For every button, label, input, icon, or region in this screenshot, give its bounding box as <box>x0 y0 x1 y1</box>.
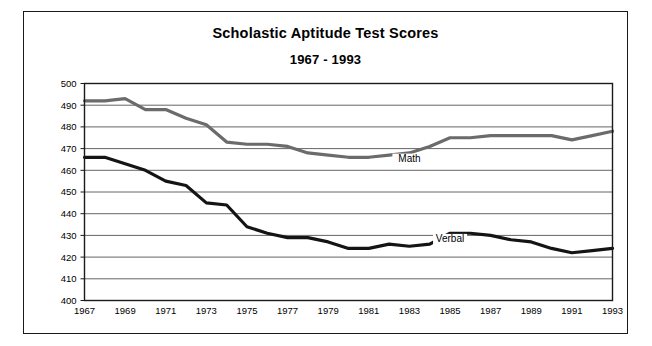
x-tick-label: 1971 <box>155 305 176 316</box>
y-tick-label: 470 <box>61 143 77 154</box>
y-tick-label: 410 <box>61 273 77 284</box>
x-tick-label: 1991 <box>561 305 582 316</box>
x-tick-label: 1993 <box>602 305 623 316</box>
x-tick-label: 1967 <box>74 305 95 316</box>
series-label-math: Math <box>398 153 420 164</box>
y-axis-tick-labels: 400410420430440450460470480490500 <box>61 78 77 306</box>
figure-container: Scholastic Aptitude Test Scores 1967 - 1… <box>0 0 652 346</box>
y-tick-label: 450 <box>61 186 77 197</box>
x-tick-label: 1975 <box>236 305 257 316</box>
x-tick-label: 1987 <box>480 305 501 316</box>
y-tick-label: 430 <box>61 230 77 241</box>
series-label-verbal: Verbal <box>436 233 464 244</box>
x-tick-label: 1985 <box>439 305 460 316</box>
line-chart-plot: 400410420430440450460470480490500 196719… <box>0 0 652 346</box>
y-tick-label: 440 <box>61 208 77 219</box>
x-tick-label: 1969 <box>115 305 136 316</box>
x-tick-label: 1989 <box>521 305 542 316</box>
x-tick-label: 1983 <box>399 305 420 316</box>
y-tick-label: 500 <box>61 78 77 89</box>
series-line-verbal <box>85 157 613 252</box>
x-tick-label: 1979 <box>318 305 339 316</box>
data-series-lines <box>85 99 613 253</box>
x-tick-label: 1973 <box>196 305 217 316</box>
x-tick-label: 1977 <box>277 305 298 316</box>
gridlines <box>85 105 613 279</box>
y-tick-label: 460 <box>61 165 77 176</box>
x-axis-tick-labels: 1967196919711973197519771979198119831985… <box>74 305 623 316</box>
y-tick-label: 480 <box>61 121 77 132</box>
y-tick-label: 420 <box>61 252 77 263</box>
y-tick-label: 490 <box>61 100 77 111</box>
x-tick-label: 1981 <box>358 305 379 316</box>
